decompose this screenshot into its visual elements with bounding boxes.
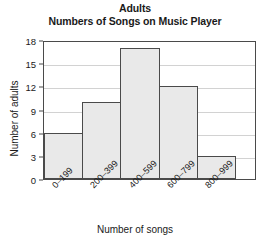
y-axis-tick-label: 15 xyxy=(25,59,36,70)
bar xyxy=(120,48,160,179)
bar-series xyxy=(44,42,255,179)
y-axis-label: Number of adults xyxy=(9,59,20,179)
x-axis: 0–199200–399400–599600–799800–999 xyxy=(43,180,256,226)
y-axis: Number of adults 0369121518 xyxy=(0,41,43,180)
y-axis-tick-label: 3 xyxy=(31,151,36,162)
x-axis-label: Number of songs xyxy=(0,224,270,235)
chart-subtitle: Numbers of Songs on Music Player xyxy=(0,15,270,28)
histogram-chart: Adults Numbers of Songs on Music Player … xyxy=(0,0,270,246)
y-axis-tick-label: 9 xyxy=(31,105,36,116)
y-axis-tick-label: 18 xyxy=(25,36,36,47)
y-axis-tick-label: 6 xyxy=(31,128,36,139)
chart-title-block: Adults Numbers of Songs on Music Player xyxy=(0,2,270,28)
y-axis-tick-label: 12 xyxy=(25,82,36,93)
chart-title: Adults xyxy=(0,2,270,15)
y-axis-tick-label: 0 xyxy=(31,175,36,186)
